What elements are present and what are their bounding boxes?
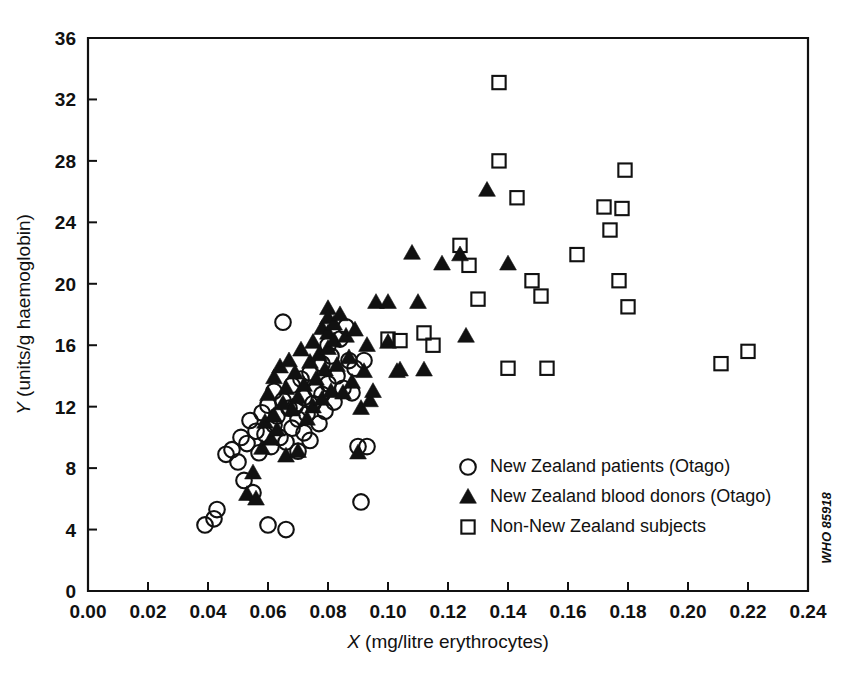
y-tick-label: 20 — [55, 274, 76, 295]
x-tick-label: 0.10 — [370, 601, 407, 622]
chart-canvas: 0.000.020.040.060.080.100.120.140.160.18… — [0, 0, 858, 678]
who-code-text: WHO 85918 — [819, 491, 834, 563]
scatter-plot-figure: 0.000.020.040.060.080.100.120.140.160.18… — [0, 0, 858, 678]
who-code-label: WHO 85918 — [819, 491, 834, 563]
y-tick-label: 36 — [55, 28, 76, 49]
x-tick-label: 0.00 — [70, 601, 107, 622]
x-tick-label: 0.22 — [730, 601, 767, 622]
y-tick-label: 12 — [55, 397, 76, 418]
x-axis-title-text: (mg/litre erythrocytes) — [360, 631, 549, 652]
y-tick-label: 8 — [65, 458, 76, 479]
x-tick-label: 0.24 — [790, 601, 827, 622]
y-tick-label: 28 — [55, 151, 76, 172]
x-tick-label: 0.20 — [670, 601, 707, 622]
y-tick-label: 24 — [55, 212, 77, 233]
y-tick-label: 32 — [55, 89, 76, 110]
x-tick-label: 0.18 — [610, 601, 647, 622]
y-tick-label: 16 — [55, 335, 76, 356]
x-tick-label: 0.04 — [190, 601, 227, 622]
x-tick-label: 0.16 — [550, 601, 587, 622]
x-tick-label: 0.02 — [130, 601, 167, 622]
y-axis-title: Y (units/g haemoglobin) — [13, 214, 34, 415]
legend-label: Non-New Zealand subjects — [490, 516, 706, 536]
x-tick-label: 0.08 — [310, 601, 347, 622]
legend-label: New Zealand patients (Otago) — [490, 456, 730, 476]
x-tick-label: 0.14 — [490, 601, 527, 622]
y-axis-title-text: (units/g haemoglobin) — [13, 214, 34, 402]
legend-label: New Zealand blood donors (Otago) — [490, 486, 771, 506]
x-axis-title: X (mg/litre erythrocytes) — [346, 631, 549, 652]
x-tick-label: 0.12 — [430, 601, 467, 622]
x-tick-label: 0.06 — [250, 601, 287, 622]
y-tick-label: 0 — [65, 581, 76, 602]
y-tick-label: 4 — [65, 520, 76, 541]
